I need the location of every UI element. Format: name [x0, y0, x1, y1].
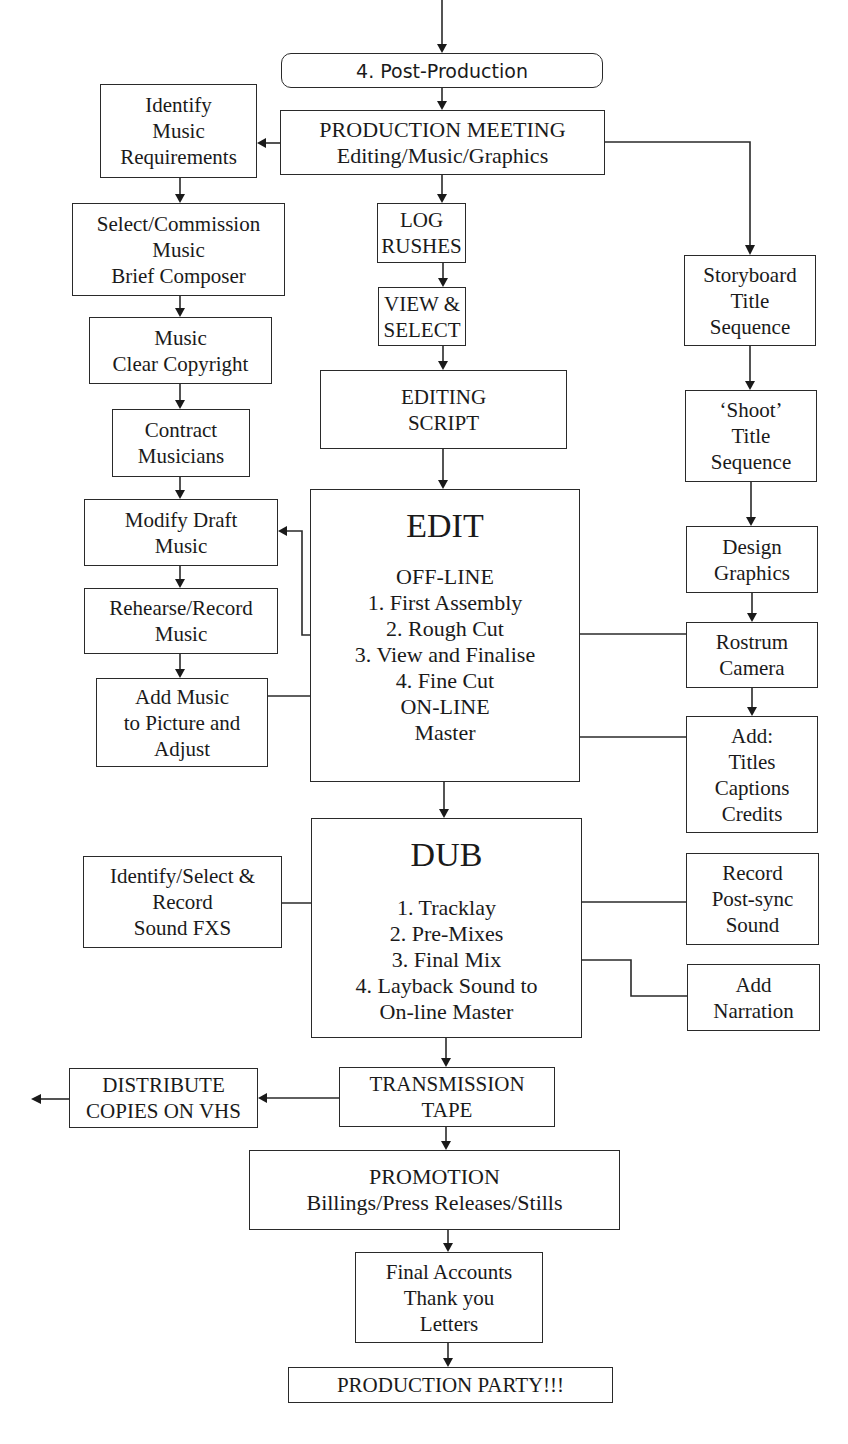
- node-label: Record: [722, 860, 783, 886]
- node-label: Brief Composer: [111, 263, 246, 289]
- node-label: LOG: [400, 207, 443, 233]
- node-dub: DUB 1. Tracklay 2. Pre-Mixes 3. Final Mi…: [311, 818, 582, 1038]
- node-label: OFF-LINE: [396, 564, 494, 590]
- node-label: Narration: [713, 998, 793, 1024]
- node-promotion: PROMOTION Billings/Press Releases/Stills: [249, 1150, 620, 1230]
- node-label: Music: [155, 621, 208, 647]
- node-label: PRODUCTION PARTY!!!: [337, 1372, 564, 1398]
- node-label: 4. Fine Cut: [396, 668, 494, 694]
- node-label: Credits: [722, 801, 783, 827]
- node-label: Add: [735, 972, 771, 998]
- node-label: Add Music: [135, 684, 229, 710]
- node-label: 1. Tracklay: [397, 895, 496, 921]
- node-label: DISTRIBUTE: [102, 1072, 225, 1098]
- node-design-graphics: Design Graphics: [686, 526, 818, 593]
- node-label: ‘Shoot’: [720, 397, 783, 423]
- node-label: Final Accounts: [386, 1259, 513, 1285]
- node-record-post-sync-sound: Record Post-sync Sound: [686, 853, 819, 945]
- node-label: RUSHES: [381, 233, 462, 259]
- node-label: Titles: [728, 749, 775, 775]
- stage-banner-label: 4. Post-Production: [356, 58, 528, 84]
- node-label: 2. Pre-Mixes: [390, 921, 504, 947]
- node-shoot-title-sequence: ‘Shoot’ Title Sequence: [685, 390, 817, 482]
- node-transmission-tape: TRANSMISSION TAPE: [339, 1067, 555, 1127]
- node-label: EDITING: [401, 384, 486, 410]
- node-add-narration: Add Narration: [687, 964, 820, 1031]
- node-label: 1. First Assembly: [368, 590, 523, 616]
- node-label: Rehearse/Record: [109, 595, 252, 621]
- node-label: Select/Commission: [97, 211, 260, 237]
- node-heading: DUB: [411, 835, 483, 875]
- node-contract-musicians: Contract Musicians: [112, 409, 250, 477]
- node-identify-select-sound-fxs: Identify/Select & Record Sound FXS: [83, 856, 282, 948]
- node-add-titles-captions-credits: Add: Titles Captions Credits: [686, 716, 818, 833]
- node-add-music-to-picture: Add Music to Picture and Adjust: [96, 678, 268, 767]
- node-label: Adjust: [154, 736, 210, 762]
- node-select-commission-music: Select/Commission Music Brief Composer: [72, 203, 285, 296]
- node-label: Contract: [145, 417, 217, 443]
- node-label: Clear Copyright: [113, 351, 249, 377]
- node-editing-script: EDITING SCRIPT: [320, 370, 567, 449]
- node-rostrum-camera: Rostrum Camera: [686, 622, 818, 688]
- node-view-select: VIEW & SELECT: [378, 287, 466, 346]
- node-label: Music: [152, 118, 205, 144]
- node-label: Requirements: [120, 144, 237, 170]
- node-label: Musicians: [138, 443, 224, 469]
- node-label: VIEW &: [384, 291, 460, 317]
- node-heading: EDIT: [406, 506, 483, 546]
- node-label: Sound FXS: [134, 915, 231, 941]
- node-label: COPIES ON VHS: [86, 1098, 241, 1124]
- node-label: Title: [731, 288, 770, 314]
- node-label: Sequence: [710, 314, 790, 340]
- node-label: TRANSMISSION: [369, 1071, 524, 1097]
- node-identify-music-requirements: Identify Music Requirements: [100, 84, 257, 178]
- node-label: Title: [732, 423, 771, 449]
- node-label: Post-sync: [712, 886, 794, 912]
- node-storyboard-title-sequence: Storyboard Title Sequence: [684, 255, 816, 346]
- node-label: Music: [155, 533, 208, 559]
- node-distribute-copies-vhs: DISTRIBUTE COPIES ON VHS: [69, 1068, 258, 1128]
- node-label: TAPE: [422, 1097, 473, 1123]
- node-label: Record: [152, 889, 213, 915]
- node-label: 4. Layback Sound to: [355, 973, 537, 999]
- flowchart-canvas: 4. Post-Production PRODUCTION MEETING Ed…: [0, 0, 848, 1444]
- node-label: Editing/Music/Graphics: [337, 143, 548, 169]
- node-label: On-line Master: [380, 999, 514, 1025]
- node-production-meeting: PRODUCTION MEETING Editing/Music/Graphic…: [280, 110, 605, 175]
- node-label: Sequence: [711, 449, 791, 475]
- node-label: Storyboard: [703, 262, 796, 288]
- node-label: Graphics: [714, 560, 790, 586]
- node-label: Design: [722, 534, 782, 560]
- node-label: SELECT: [384, 317, 461, 343]
- node-edit: EDIT OFF-LINE 1. First Assembly 2. Rough…: [310, 489, 580, 782]
- node-label: Identify: [145, 92, 211, 118]
- node-label: Add:: [731, 723, 773, 749]
- node-label: PRODUCTION MEETING: [319, 117, 565, 143]
- node-label: Letters: [420, 1311, 478, 1337]
- node-label: SCRIPT: [408, 410, 479, 436]
- node-production-party: PRODUCTION PARTY!!!: [288, 1367, 613, 1403]
- node-label: 3. View and Finalise: [355, 642, 535, 668]
- node-label: Rostrum: [716, 629, 788, 655]
- node-label: Music: [152, 237, 205, 263]
- node-label: Master: [414, 720, 475, 746]
- node-final-accounts: Final Accounts Thank you Letters: [355, 1252, 543, 1343]
- node-label: Camera: [719, 655, 784, 681]
- node-label: Captions: [715, 775, 790, 801]
- node-label: PROMOTION: [369, 1164, 500, 1190]
- node-log-rushes: LOG RUSHES: [377, 203, 466, 263]
- node-rehearse-record-music: Rehearse/Record Music: [84, 588, 278, 654]
- node-label: 3. Final Mix: [392, 947, 501, 973]
- node-label: Thank you: [404, 1285, 494, 1311]
- node-modify-draft-music: Modify Draft Music: [84, 499, 278, 566]
- node-label: 2. Rough Cut: [386, 616, 504, 642]
- node-label: Modify Draft: [125, 507, 238, 533]
- node-label: ON-LINE: [400, 694, 489, 720]
- node-label: Sound: [726, 912, 780, 938]
- node-music-clear-copyright: Music Clear Copyright: [89, 317, 272, 384]
- node-label: Billings/Press Releases/Stills: [306, 1190, 562, 1216]
- stage-banner-post-production: 4. Post-Production: [281, 53, 603, 88]
- node-label: Music: [154, 325, 207, 351]
- node-label: to Picture and: [124, 710, 241, 736]
- node-label: Identify/Select &: [110, 863, 255, 889]
